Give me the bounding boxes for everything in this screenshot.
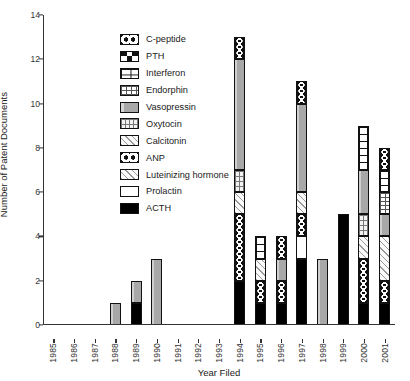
x-tick-mark: [95, 339, 96, 343]
legend-label: ACTH: [146, 203, 171, 213]
bar-segment-anp: [255, 281, 266, 303]
legend-label: Prolactin: [146, 186, 182, 196]
x-tick-mark: [178, 339, 179, 343]
x-tick-label: 1993: [214, 343, 224, 363]
legend-item-pth: PTH: [120, 48, 229, 65]
x-tick-mark: [364, 339, 365, 343]
legend-swatch-vasopressin-icon: [120, 102, 139, 113]
legend-item-lh: Luteinizing hormone: [120, 166, 229, 183]
bar-segment-anp: [296, 214, 307, 236]
legend-label: Luteinizing hormone: [146, 170, 229, 180]
x-tick-mark: [260, 339, 261, 343]
x-tick-mark: [136, 339, 137, 343]
bar-segment-cpeptide: [296, 81, 307, 103]
legend-swatch-calcitonin-icon: [120, 135, 139, 146]
legend-label: Calcitonin: [146, 136, 186, 146]
legend-item-acth: ACTH: [120, 200, 229, 217]
legend-label: Oxytocin: [146, 119, 182, 129]
bar-segment-vasopressin: [358, 170, 369, 214]
legend-item-oxytocin: Oxytocin: [120, 115, 229, 132]
bar-segment-vasopressin: [110, 303, 121, 325]
y-axis-line: [43, 15, 44, 325]
bar-segment-oxytocin: [234, 170, 245, 192]
bar-segment-calcitonin: [358, 236, 369, 258]
plot-area: 02468101214 1985198619871988198919901991…: [43, 15, 395, 325]
bar-2001: [379, 148, 390, 325]
bar-segment-acth: [379, 303, 390, 325]
x-tick-label: 1988: [110, 343, 120, 363]
bar-1988: [110, 303, 121, 325]
x-tick-label: 1987: [90, 343, 100, 363]
bar-segment-anp: [358, 259, 369, 303]
legend-label: Vasopressin: [146, 102, 196, 112]
bar-segment-anp: [379, 281, 390, 303]
bar-segment-vasopressin: [317, 259, 328, 325]
legend-swatch-anp-icon: [120, 152, 139, 163]
bar-1999: [338, 214, 349, 325]
x-tick-mark: [302, 339, 303, 343]
bar-1994: [234, 37, 245, 325]
bar-1989: [131, 281, 142, 325]
x-tick-mark: [281, 339, 282, 343]
x-tick-label: 1998: [318, 343, 328, 363]
x-tick-label: 1990: [152, 343, 162, 363]
bar-segment-calcitonin: [255, 259, 266, 281]
bar-segment-cpeptide: [276, 236, 287, 258]
bar-segment-acth: [276, 303, 287, 325]
legend-swatch-oxytocin-icon: [120, 118, 139, 129]
x-tick-mark: [385, 339, 386, 343]
y-axis-title: Number of Patent Documents: [0, 0, 9, 310]
bar-1990: [151, 259, 162, 325]
legend-item-endorphin: Endorphin: [120, 82, 229, 99]
legend-item-prolactin: Prolactin: [120, 183, 229, 200]
x-tick-label: 2001: [380, 343, 390, 363]
bar-segment-vasopressin: [379, 214, 390, 236]
bar-1996: [276, 236, 287, 325]
bar-1995: [255, 236, 266, 325]
x-tick-label: 1991: [173, 343, 183, 363]
legend-item-vasopressin: Vasopressin: [120, 99, 229, 116]
bar-segment-prolactin: [296, 236, 307, 258]
legend: C-peptidePTHInterferonEndorphinVasopress…: [120, 31, 229, 217]
bar-1998: [317, 259, 328, 325]
bar-segment-anp: [276, 281, 287, 303]
x-tick-label: 1992: [193, 343, 203, 363]
bar-segment-vasopressin: [131, 281, 142, 303]
legend-swatch-cpeptide-icon: [120, 34, 139, 45]
x-tick-label: 1985: [48, 343, 58, 363]
x-tick-label: 1989: [131, 343, 141, 363]
bar-segment-acth: [131, 303, 142, 325]
bar-segment-acth: [296, 259, 307, 325]
bar-segment-oxytocin: [358, 214, 369, 236]
legend-label: C-peptide: [146, 34, 186, 44]
legend-item-calcitonin: Calcitonin: [120, 132, 229, 149]
bar-segment-acth: [358, 303, 369, 325]
x-tick-mark: [115, 339, 116, 343]
legend-item-anp: ANP: [120, 149, 229, 166]
legend-swatch-pth-icon: [120, 51, 139, 62]
bar-segment-endorphin: [379, 192, 390, 214]
bar-segment-vasopressin: [276, 259, 287, 281]
x-axis-line: [43, 324, 395, 325]
x-tick-label: 1995: [255, 343, 265, 363]
x-tick-mark: [74, 339, 75, 343]
legend-item-cpeptide: C-peptide: [120, 31, 229, 48]
x-tick-label: 1999: [338, 343, 348, 363]
bar-segment-acth: [338, 214, 349, 325]
legend-swatch-lh-icon: [120, 169, 139, 180]
x-tick-label: 1997: [297, 343, 307, 363]
bar-segment-vasopressin: [296, 104, 307, 193]
bar-2000: [358, 126, 369, 325]
bar-segment-interferon: [358, 126, 369, 170]
x-tick-label: 2000: [359, 343, 369, 363]
bar-segment-calcitonin: [234, 192, 245, 214]
bar-segment-cpeptide: [379, 148, 390, 170]
x-tick-mark: [53, 339, 54, 343]
x-tick-label: 1996: [276, 343, 286, 363]
bar-segment-calcitonin: [379, 236, 390, 280]
bar-segment-vasopressin: [151, 259, 162, 325]
legend-label: PTH: [146, 51, 164, 61]
legend-label: Endorphin: [146, 85, 188, 95]
legend-label: Interferon: [146, 68, 185, 78]
bar-segment-acth: [255, 303, 266, 325]
